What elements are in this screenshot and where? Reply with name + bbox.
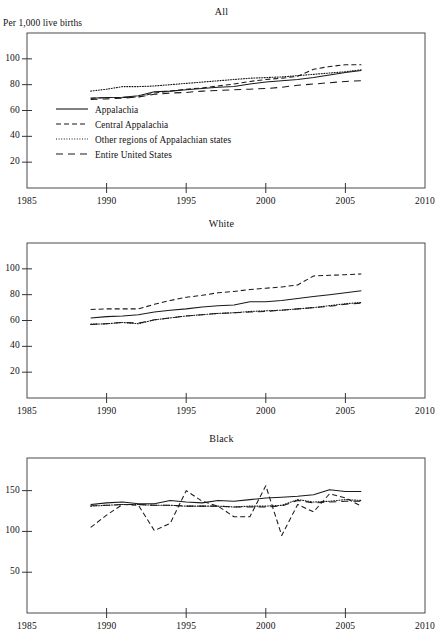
x-tick-label: 2005 — [325, 406, 365, 416]
plot-area-black — [0, 430, 443, 644]
y-tick-label: 100 — [0, 53, 20, 63]
y-tick-label: 40 — [0, 340, 20, 350]
x-tick-label: 2010 — [405, 621, 443, 631]
y-tick-label: 100 — [0, 525, 20, 535]
legend-line-swatch-longdash — [55, 149, 89, 159]
legend-item: Central Appalachia — [55, 119, 231, 134]
data-series-line — [91, 70, 362, 91]
x-tick-label: 1985 — [7, 196, 47, 206]
legend-item-label: Appalachia — [95, 105, 138, 115]
chart-panel-black: Black 50100150198519901995200020052010 — [0, 430, 443, 644]
legend-line-swatch-dotted — [55, 134, 89, 144]
data-series-line — [91, 486, 362, 536]
legend-line-swatch-solid — [55, 104, 89, 114]
x-tick-label: 1995 — [166, 621, 206, 631]
y-tick-label: 100 — [0, 263, 20, 273]
legend-line-swatch-dashed — [55, 119, 89, 129]
y-tick-label: 60 — [0, 315, 20, 325]
plot-frame — [27, 458, 425, 613]
x-tick-label: 1990 — [87, 621, 127, 631]
x-tick-label: 2000 — [246, 406, 286, 416]
x-tick-label: 1995 — [166, 406, 206, 416]
x-tick-label: 1990 — [87, 406, 127, 416]
data-series-line — [91, 70, 362, 98]
plot-frame — [27, 243, 425, 398]
chart-legend: AppalachiaCentral AppalachiaOther region… — [55, 104, 231, 164]
y-tick-label: 60 — [0, 105, 20, 115]
x-tick-label: 1990 — [87, 196, 127, 206]
legend-item-label: Entire United States — [95, 150, 172, 160]
plot-area-white — [0, 215, 443, 430]
data-series-line — [91, 291, 362, 318]
legend-item: Appalachia — [55, 104, 231, 119]
y-tick-label: 80 — [0, 79, 20, 89]
x-tick-label: 2000 — [246, 621, 286, 631]
legend-item-label: Central Appalachia — [95, 120, 168, 130]
data-series-line — [91, 274, 362, 310]
y-tick-label: 40 — [0, 130, 20, 140]
y-tick-label: 150 — [0, 485, 20, 495]
x-tick-label: 2005 — [325, 196, 365, 206]
x-tick-label: 1985 — [7, 621, 47, 631]
y-tick-label: 80 — [0, 289, 20, 299]
y-tick-label: 50 — [0, 566, 20, 576]
x-tick-label: 2005 — [325, 621, 365, 631]
x-tick-label: 1985 — [7, 406, 47, 416]
legend-item: Entire United States — [55, 149, 231, 164]
x-tick-label: 1995 — [166, 196, 206, 206]
x-tick-label: 2000 — [246, 196, 286, 206]
chart-panel-white: White 2040608010019851990199520002005201… — [0, 215, 443, 430]
chart-panel-all: All Per 1,000 live births 20406080100198… — [0, 0, 443, 215]
x-tick-label: 2010 — [405, 196, 443, 206]
legend-item: Other regions of Appalachian states — [55, 134, 231, 149]
y-tick-label: 20 — [0, 156, 20, 166]
x-tick-label: 2010 — [405, 406, 443, 416]
plot-svg — [0, 430, 443, 644]
data-series-line — [91, 65, 362, 99]
plot-svg — [0, 215, 443, 430]
legend-item-label: Other regions of Appalachian states — [95, 135, 231, 145]
y-tick-label: 20 — [0, 366, 20, 376]
